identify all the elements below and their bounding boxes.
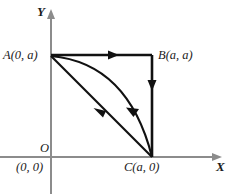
diagonal-path-group: [51, 56, 152, 157]
y-axis-arrow-icon: [47, 9, 55, 19]
coordinate-figure: A(0, a) B(a, a) C(a, 0) O (0, 0) X Y: [0, 0, 236, 194]
square-path-group: [51, 51, 157, 158]
segment-bc-arrow-icon: [148, 80, 157, 91]
point-label-b: B(a, a): [158, 49, 193, 62]
segment-ac-straight: [51, 56, 152, 157]
point-label-a: A(0, a): [3, 49, 38, 62]
point-label-c: C(a, 0): [124, 161, 159, 174]
x-axis-label: X: [216, 160, 225, 173]
y-axis-label: Y: [37, 5, 45, 18]
origin-label: O: [40, 142, 49, 155]
segment-ab-arrow-icon: [108, 51, 119, 60]
origin-coordinates-label: (0, 0): [16, 161, 43, 174]
